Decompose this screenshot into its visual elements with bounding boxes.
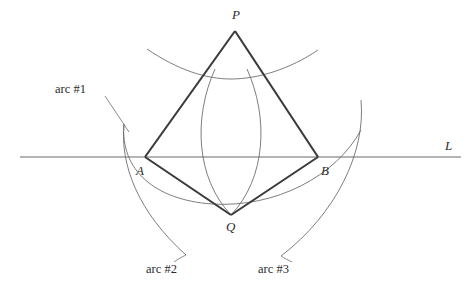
point-label-A: A xyxy=(136,164,144,177)
point-label-B: B xyxy=(321,164,329,177)
arc-label-1: arc #1 xyxy=(55,83,86,96)
diagram-canvas: P A B Q L arc #1 arc #2 arc #3 xyxy=(0,0,470,290)
arc-2-leader-line xyxy=(174,255,186,262)
arc-1-curve xyxy=(147,49,318,79)
kite-APBQ xyxy=(145,31,318,215)
point-label-P: P xyxy=(232,8,240,21)
arc-3-curve xyxy=(281,100,362,256)
lens-arc-right xyxy=(231,69,261,215)
arc-label-2: arc #2 xyxy=(146,263,177,276)
segment-A-P xyxy=(145,31,235,157)
segment-B-Q xyxy=(231,157,318,215)
segment-P-B xyxy=(235,31,318,157)
arc-1-leader-line xyxy=(105,96,129,132)
line-label-L: L xyxy=(445,139,452,152)
lens-arc-left xyxy=(201,69,231,215)
segment-Q-A xyxy=(145,157,231,215)
point-label-Q: Q xyxy=(226,220,235,233)
arc-label-3: arc #3 xyxy=(258,263,289,276)
geometry-figure xyxy=(0,0,470,290)
